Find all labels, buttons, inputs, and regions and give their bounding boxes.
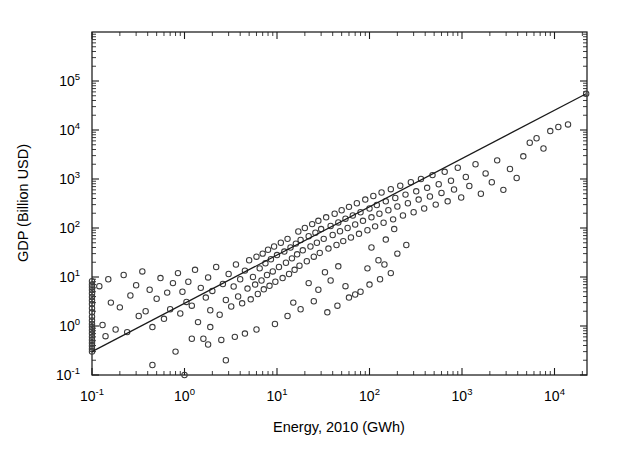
data-point <box>103 333 108 338</box>
data-point <box>100 322 105 327</box>
data-point <box>259 278 264 283</box>
tick-label: 102 <box>359 386 380 404</box>
data-point <box>219 337 224 342</box>
data-point <box>403 192 408 197</box>
data-point <box>161 316 166 321</box>
data-point <box>369 215 374 220</box>
data-point <box>395 204 400 209</box>
data-points <box>89 91 589 378</box>
data-point <box>356 231 361 236</box>
data-point <box>242 331 247 336</box>
data-point <box>150 324 155 329</box>
data-point <box>372 224 377 229</box>
data-point <box>233 262 238 267</box>
data-point <box>463 174 468 179</box>
data-point <box>267 283 272 288</box>
data-point <box>341 238 346 243</box>
data-point <box>217 312 222 317</box>
regression-line <box>92 94 586 352</box>
data-point <box>306 280 311 285</box>
tick-label: 100 <box>59 316 80 334</box>
data-point <box>235 294 240 299</box>
data-point <box>337 229 342 234</box>
data-point <box>556 124 561 129</box>
data-point <box>358 289 363 294</box>
data-point <box>483 171 488 176</box>
data-point <box>392 226 397 231</box>
data-point <box>133 283 138 288</box>
data-point <box>255 291 260 296</box>
data-point <box>261 287 266 292</box>
data-point <box>360 218 365 223</box>
data-point <box>254 327 259 332</box>
data-point <box>278 240 283 245</box>
data-point <box>404 242 409 247</box>
data-point <box>565 122 570 127</box>
data-point <box>189 336 194 341</box>
data-point <box>257 266 262 271</box>
data-point <box>382 262 387 267</box>
data-point <box>300 248 305 253</box>
tick-label: 101 <box>267 386 288 404</box>
data-point <box>390 217 395 222</box>
data-point <box>383 237 388 242</box>
data-point <box>322 270 327 275</box>
data-point <box>276 264 281 269</box>
data-point <box>180 289 185 294</box>
data-point <box>223 358 228 363</box>
data-point <box>311 254 316 259</box>
tick-label: 10-1 <box>56 365 80 383</box>
data-point <box>203 295 208 300</box>
data-point <box>388 186 393 191</box>
data-point <box>229 304 234 309</box>
tick-label: 100 <box>174 386 195 404</box>
data-point <box>367 282 372 287</box>
data-point <box>427 194 432 199</box>
data-point <box>195 319 200 324</box>
data-point <box>264 272 269 277</box>
data-point <box>354 201 359 206</box>
data-point <box>245 286 250 291</box>
data-point <box>369 245 374 250</box>
data-point <box>325 310 330 315</box>
data-point <box>314 240 319 245</box>
data-point <box>323 215 328 220</box>
data-point <box>158 275 163 280</box>
data-point <box>439 190 444 195</box>
data-point <box>494 158 499 163</box>
data-point <box>345 225 350 230</box>
data-point <box>393 195 398 200</box>
data-point <box>289 256 294 261</box>
data-point <box>416 197 421 202</box>
data-point <box>136 313 141 318</box>
data-point <box>507 166 512 171</box>
data-point <box>283 260 288 265</box>
data-point <box>296 229 301 234</box>
data-point <box>213 264 218 269</box>
plot-frame <box>92 32 587 375</box>
data-point <box>270 269 275 274</box>
tick-label: 104 <box>59 120 80 138</box>
data-point <box>442 169 447 174</box>
data-point <box>317 250 322 255</box>
data-point <box>371 193 376 198</box>
data-point <box>414 189 419 194</box>
data-point <box>321 236 326 241</box>
data-point <box>208 308 213 313</box>
data-point <box>455 165 460 170</box>
data-point <box>541 146 546 151</box>
tick-label: 101 <box>59 267 80 285</box>
data-point <box>248 297 253 302</box>
x-axis-title: Energy, 2010 (GWh) <box>273 419 405 435</box>
data-point <box>285 236 290 241</box>
data-point <box>448 178 453 183</box>
data-point <box>473 162 478 167</box>
data-point <box>386 208 391 213</box>
data-point <box>97 283 102 288</box>
data-point <box>421 206 426 211</box>
data-point <box>489 180 494 185</box>
data-point <box>445 199 450 204</box>
data-point <box>521 154 526 159</box>
data-point <box>332 211 337 216</box>
data-point <box>150 362 155 367</box>
